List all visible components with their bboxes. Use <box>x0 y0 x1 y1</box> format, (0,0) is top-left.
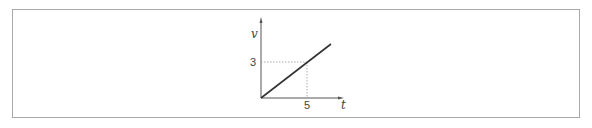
x-tick-label: 5 <box>304 99 310 111</box>
y-axis-arrow-icon <box>260 17 263 23</box>
velocity-time-graph: v 3 5 t <box>0 0 592 128</box>
data-line <box>261 44 331 98</box>
y-axis-label: v <box>251 27 258 41</box>
x-axis-label: t <box>341 98 346 112</box>
y-tick-label: 3 <box>250 56 256 68</box>
